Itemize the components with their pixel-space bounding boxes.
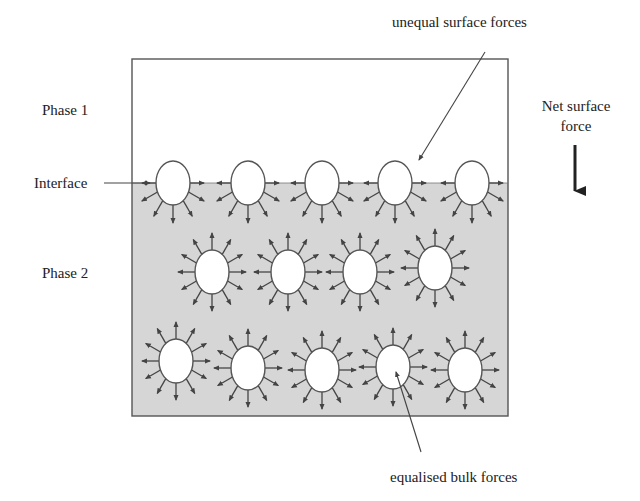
unequal-surface-forces-label: unequal surface forces bbox=[392, 14, 527, 30]
surface-molecule bbox=[305, 161, 339, 205]
net-surface-force-label-line2: force bbox=[561, 118, 592, 134]
equalised-bulk-forces-label: equalised bulk forces bbox=[390, 469, 518, 485]
phase-2-label: Phase 2 bbox=[42, 265, 88, 281]
surface-molecule bbox=[231, 161, 265, 205]
bulk-molecule bbox=[418, 246, 452, 290]
unequal-forces-pointer bbox=[419, 52, 485, 160]
bulk-molecule bbox=[448, 348, 482, 392]
bulk-molecule bbox=[305, 348, 339, 392]
surface-molecule bbox=[156, 161, 190, 205]
bulk-molecule bbox=[159, 339, 193, 383]
bulk-molecule bbox=[195, 250, 229, 294]
bulk-molecule bbox=[271, 250, 305, 294]
bulk-molecule bbox=[343, 250, 377, 294]
surface-tension-diagram: Phase 1 Phase 2 Interface unequal surfac… bbox=[0, 0, 640, 501]
phase-1-label: Phase 1 bbox=[42, 102, 88, 118]
surface-molecule bbox=[378, 161, 412, 205]
interface-label: Interface bbox=[34, 175, 88, 191]
bulk-molecule bbox=[376, 345, 410, 389]
surface-molecule bbox=[455, 161, 489, 205]
bulk-molecule bbox=[231, 346, 265, 390]
net-surface-force-label-line1: Net surface bbox=[542, 98, 611, 114]
